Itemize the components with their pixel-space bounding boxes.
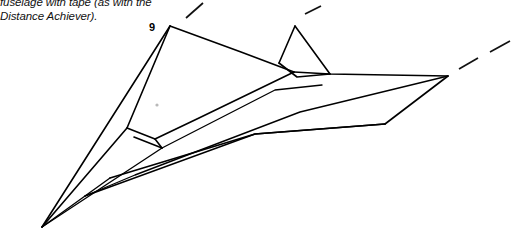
- left-wing-top-edge: [170, 26, 294, 72]
- dash-upper-left: [186, 3, 203, 18]
- fin-rear-edge: [295, 26, 330, 74]
- fuselage-keel-upper: [42, 26, 170, 227]
- left-wing-root-front: [127, 128, 155, 139]
- fuselage-spine-mid: [42, 124, 385, 227]
- dash-fin-tip: [305, 6, 321, 14]
- paper-airplane-drawing: [0, 0, 527, 236]
- paper-speck: [155, 103, 158, 106]
- figure-page: fuselage with tape (as with the Distance…: [0, 0, 527, 236]
- left-wing-inner-edge: [155, 72, 294, 139]
- figure-number-label: 9: [149, 21, 155, 33]
- dash-right-inner: [459, 58, 478, 69]
- left-wing-leading-edge: [127, 26, 170, 128]
- dash-right-outer: [490, 41, 510, 52]
- fin-front-edge: [279, 26, 295, 63]
